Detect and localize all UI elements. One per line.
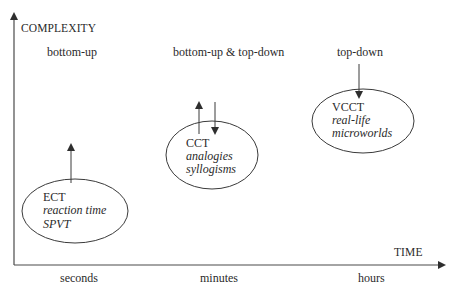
diagram-graphics: [0, 0, 454, 289]
complexity-time-diagram: COMPLEXITY TIME bottom-up bottom-up & to…: [0, 0, 454, 289]
node-item: syllogisms: [186, 162, 236, 176]
x-tick-hours: hours: [358, 271, 385, 285]
node-item: microworlds: [332, 126, 392, 140]
y-axis-label: COMPLEXITY: [21, 21, 96, 35]
node-title: ECT: [43, 190, 66, 204]
processing-label-top-down: top-down: [337, 45, 383, 59]
processing-label-bidirectional: bottom-up & top-down: [173, 45, 284, 59]
node-title: VCCT: [332, 100, 364, 114]
node-item: analogies: [186, 149, 233, 163]
x-tick-minutes: minutes: [200, 271, 238, 285]
node-item: SPVT: [43, 217, 70, 231]
node-item: reaction time: [43, 203, 106, 217]
processing-label-bottom-up: bottom-up: [47, 45, 97, 59]
node-title: CCT: [186, 136, 209, 150]
node-item: real-life: [332, 113, 370, 127]
x-tick-seconds: seconds: [60, 271, 98, 285]
x-axis-label: TIME: [394, 245, 423, 259]
